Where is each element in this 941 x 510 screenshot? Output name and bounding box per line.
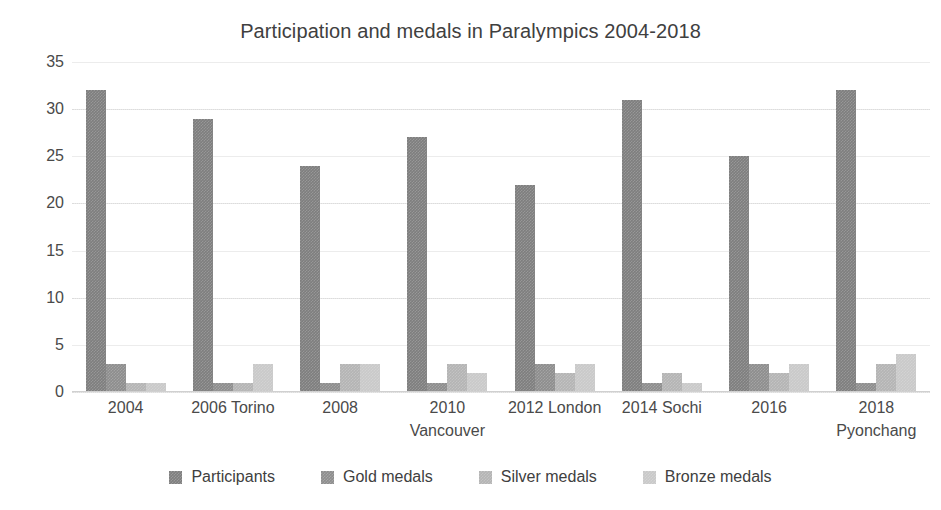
bar[interactable] xyxy=(769,373,789,392)
legend-item[interactable]: Gold medals xyxy=(321,468,433,486)
bar[interactable] xyxy=(575,364,595,392)
legend-swatch-icon xyxy=(321,471,334,484)
x-axis-tick: 2012 London xyxy=(501,396,608,419)
y-axis-tick-30: 30 xyxy=(14,100,64,118)
x-axis-tick: 2006 Torino xyxy=(179,396,286,419)
gridline-0 xyxy=(72,392,930,393)
bar-group xyxy=(72,62,179,392)
bar[interactable] xyxy=(515,185,535,392)
x-axis-tick-line1: 2018 xyxy=(859,399,895,416)
bar[interactable] xyxy=(662,373,682,392)
bar[interactable] xyxy=(300,166,320,392)
chart-page: Participation and medals in Paralympics … xyxy=(0,0,941,510)
bar[interactable] xyxy=(555,373,575,392)
legend-swatch-icon xyxy=(169,471,182,484)
legend-swatch-icon xyxy=(479,471,492,484)
y-axis-tick-35: 35 xyxy=(14,53,64,71)
bar[interactable] xyxy=(106,364,126,392)
legend-item[interactable]: Silver medals xyxy=(479,468,597,486)
bar[interactable] xyxy=(896,354,916,392)
bar[interactable] xyxy=(86,90,106,392)
bar[interactable] xyxy=(193,119,213,392)
bar[interactable] xyxy=(340,364,360,392)
x-axis-tick-line1: 2008 xyxy=(322,399,358,416)
legend-item[interactable]: Bronze medals xyxy=(643,468,772,486)
x-axis-tick-line1: 2016 xyxy=(751,399,787,416)
y-axis-tick-0: 0 xyxy=(14,383,64,401)
legend-label: Bronze medals xyxy=(665,468,772,486)
x-axis-tick: 2004 xyxy=(72,396,179,419)
x-axis-tick-line1: 2006 Torino xyxy=(191,399,274,416)
x-axis-tick-line1: 2014 Sochi xyxy=(622,399,702,416)
legend-label: Silver medals xyxy=(501,468,597,486)
x-axis-tick: 2014 Sochi xyxy=(608,396,715,419)
x-axis-line xyxy=(72,391,930,392)
legend-label: Participants xyxy=(191,468,275,486)
x-axis-tick-line2: Pyonchang xyxy=(823,419,930,442)
x-axis-tick: 2008 xyxy=(287,396,394,419)
plot-area xyxy=(72,62,930,392)
x-axis-tick: 2016 xyxy=(716,396,823,419)
bar[interactable] xyxy=(789,364,809,392)
x-axis-tick-line1: 2012 London xyxy=(508,399,601,416)
bar-group xyxy=(608,62,715,392)
bar[interactable] xyxy=(360,364,380,392)
bar-group xyxy=(823,62,930,392)
bar[interactable] xyxy=(407,137,427,392)
bar-group xyxy=(394,62,501,392)
legend-label: Gold medals xyxy=(343,468,433,486)
x-axis-tick-line1: 2004 xyxy=(108,399,144,416)
bar[interactable] xyxy=(447,364,467,392)
bar[interactable] xyxy=(467,373,487,392)
x-axis-tick: 2010Vancouver xyxy=(394,396,501,442)
bar[interactable] xyxy=(749,364,769,392)
bar[interactable] xyxy=(836,90,856,392)
x-axis-tick-line1: 2010 xyxy=(430,399,466,416)
y-axis-tick-15: 15 xyxy=(14,242,64,260)
y-axis-tick-5: 5 xyxy=(14,336,64,354)
bar[interactable] xyxy=(729,156,749,392)
x-axis-tick-line2: Vancouver xyxy=(394,419,501,442)
y-axis: 05101520253035 xyxy=(8,62,64,392)
bar-group xyxy=(501,62,608,392)
bar-group xyxy=(287,62,394,392)
legend-swatch-icon xyxy=(643,471,656,484)
bar[interactable] xyxy=(535,364,555,392)
legend-item[interactable]: Participants xyxy=(169,468,275,486)
y-axis-tick-10: 10 xyxy=(14,289,64,307)
bar[interactable] xyxy=(622,100,642,392)
x-axis-tick: 2018Pyonchang xyxy=(823,396,930,442)
chart-legend: ParticipantsGold medalsSilver medalsBron… xyxy=(0,468,941,486)
y-axis-tick-25: 25 xyxy=(14,147,64,165)
bar-group xyxy=(716,62,823,392)
y-axis-tick-20: 20 xyxy=(14,194,64,212)
chart-title: Participation and medals in Paralympics … xyxy=(0,20,941,43)
bar[interactable] xyxy=(253,364,273,392)
bar[interactable] xyxy=(876,364,896,392)
x-axis-labels: 20042006 Torino20082010Vancouver2012 Lon… xyxy=(72,396,930,456)
bar-group xyxy=(179,62,286,392)
